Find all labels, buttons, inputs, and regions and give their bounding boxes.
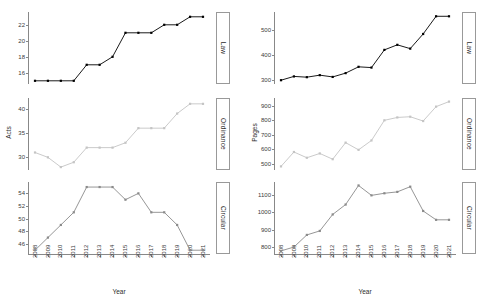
y-tick-label: 700	[261, 132, 271, 138]
y-tick-label: 52	[18, 203, 25, 209]
x-axis-title: Year	[274, 288, 456, 295]
data-point	[73, 80, 75, 82]
series-line-circular	[281, 185, 449, 250]
y-tick-label: 40	[18, 106, 25, 112]
data-point	[383, 49, 385, 51]
data-point	[99, 147, 101, 149]
data-point	[60, 166, 62, 168]
data-point	[47, 80, 49, 82]
data-point	[319, 230, 321, 232]
strip-label-circular: Circular	[216, 182, 230, 254]
y-tick-label: 800	[261, 117, 271, 123]
strip-label-ordinance: Ordinance	[462, 98, 476, 170]
panel-circular: 4648505254200820092010201120122013201420…	[28, 182, 210, 254]
data-point	[396, 116, 398, 118]
panel-circular: 8009001000110020082009201020112012201320…	[274, 182, 456, 254]
data-point	[202, 249, 204, 251]
y-axis-title: Pages	[251, 119, 258, 147]
data-point	[47, 156, 49, 158]
data-point	[293, 151, 295, 153]
data-point	[357, 149, 359, 151]
y-tick-label: 54	[18, 190, 25, 196]
panel-ordinance: 500600700800900	[274, 98, 456, 170]
data-point	[383, 192, 385, 194]
data-point	[86, 64, 88, 66]
plot-area	[274, 98, 456, 170]
data-point	[150, 32, 152, 34]
data-point	[99, 186, 101, 188]
data-point	[332, 158, 334, 160]
data-point	[150, 127, 152, 129]
data-point	[47, 236, 49, 238]
plot-area	[274, 12, 456, 84]
plot-area	[28, 182, 210, 254]
data-point	[370, 139, 372, 141]
data-point	[176, 224, 178, 226]
data-point	[176, 112, 178, 114]
data-point	[163, 211, 165, 213]
data-point	[137, 127, 139, 129]
data-point	[448, 15, 450, 17]
y-tick-label: 48	[18, 228, 25, 234]
strip-label-ordinance: Ordinance	[216, 98, 230, 170]
plot-area	[28, 12, 210, 84]
data-point	[396, 191, 398, 193]
data-point	[124, 199, 126, 201]
data-point	[176, 24, 178, 26]
data-point	[280, 165, 282, 167]
data-point	[409, 186, 411, 188]
data-point	[86, 147, 88, 149]
data-point	[163, 127, 165, 129]
y-tick-label: 20	[18, 38, 25, 44]
plot-area	[274, 182, 456, 254]
data-point	[111, 147, 113, 149]
data-point	[163, 24, 165, 26]
x-axis-line	[274, 254, 456, 255]
strip-label-circular: Circular	[462, 182, 476, 254]
data-point	[396, 44, 398, 46]
strip-label-text: Law	[466, 42, 473, 55]
y-tick-label: 18	[18, 54, 25, 60]
data-point	[435, 15, 437, 17]
data-point	[202, 16, 204, 18]
y-tick-label: 600	[261, 146, 271, 152]
data-point	[332, 213, 334, 215]
y-tick-label: 1000	[258, 209, 271, 215]
data-point	[383, 119, 385, 121]
y-tick-label: 1100	[258, 192, 271, 198]
series-line-law	[281, 16, 449, 80]
data-point	[34, 80, 36, 82]
data-point	[319, 152, 321, 154]
y-tick-label: 35	[18, 130, 25, 136]
strip-label-text: Circular	[220, 206, 227, 230]
data-point	[345, 203, 347, 205]
figure-root: 16182022Law303540Ordinance46485052542008…	[0, 0, 491, 300]
series-line-circular	[35, 187, 203, 250]
strip-label-text: Ordinance	[220, 118, 227, 150]
data-point	[370, 194, 372, 196]
y-tick-label: 400	[261, 52, 271, 58]
data-point	[189, 16, 191, 18]
data-point	[293, 75, 295, 77]
data-point	[60, 80, 62, 82]
x-axis-line	[28, 254, 210, 255]
data-point	[435, 106, 437, 108]
data-point	[448, 219, 450, 221]
chart-pages: 300400500Law500600700800900Ordinance8009…	[246, 0, 491, 300]
y-tick-label: 16	[18, 70, 25, 76]
data-point	[137, 192, 139, 194]
data-point	[306, 157, 308, 159]
strip-label-law: Law	[462, 12, 476, 84]
data-point	[357, 66, 359, 68]
data-point	[111, 186, 113, 188]
data-point	[357, 184, 359, 186]
panel-law: 16182022	[28, 12, 210, 84]
data-point	[73, 211, 75, 213]
y-tick-label: 500	[261, 161, 271, 167]
data-point	[124, 142, 126, 144]
data-point	[448, 101, 450, 103]
strip-label-text: Ordinance	[466, 118, 473, 150]
data-point	[332, 76, 334, 78]
strip-label-text: Circular	[466, 206, 473, 230]
strip-label-text: Law	[220, 42, 227, 55]
